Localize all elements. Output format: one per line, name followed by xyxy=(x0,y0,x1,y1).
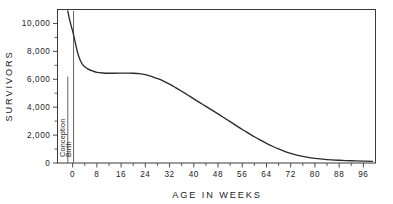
plot-frame xyxy=(58,10,376,164)
x-tick-label: 0 xyxy=(70,170,75,179)
survivorship-curve-chart: 02,0004,0006,0008,00010,000 081624324048… xyxy=(0,0,393,204)
x-tick-label: 32 xyxy=(164,170,174,179)
y-axis-title: SURVIVORS xyxy=(4,50,14,121)
y-tick-label: 6,000 xyxy=(27,75,51,84)
x-tick-label: 24 xyxy=(140,170,150,179)
x-tick-label: 88 xyxy=(334,170,344,179)
x-tick-label: 16 xyxy=(116,170,126,179)
x-axis-title: AGE IN WEEKS xyxy=(172,190,262,200)
y-tick-label: 10,000 xyxy=(22,19,51,28)
x-tick-label: 56 xyxy=(237,170,247,179)
x-tick-label: 8 xyxy=(94,170,99,179)
y-axis: 02,0004,0006,0008,00010,000 xyxy=(22,19,58,168)
x-tick-label: 64 xyxy=(261,170,271,179)
y-tick-label: 2,000 xyxy=(27,131,51,140)
x-tick-label: 96 xyxy=(358,170,368,179)
x-axis: 081624324048566472808896 xyxy=(70,163,368,179)
y-tick-label: 8,000 xyxy=(27,47,51,56)
chart-figure: 02,0004,0006,0008,00010,000 081624324048… xyxy=(0,0,393,204)
y-tick-label: 4,000 xyxy=(27,103,51,112)
survivor-curve-line xyxy=(68,11,373,161)
x-tick-label: 48 xyxy=(213,170,223,179)
event-label-birth: Birth xyxy=(64,141,73,157)
x-tick-label: 80 xyxy=(310,170,320,179)
y-tick-label: 0 xyxy=(45,159,50,168)
x-tick-label: 72 xyxy=(286,170,296,179)
plot-border xyxy=(58,10,376,164)
annotation-lines: ConceptionBirth xyxy=(58,11,73,163)
x-tick-label: 40 xyxy=(189,170,199,179)
